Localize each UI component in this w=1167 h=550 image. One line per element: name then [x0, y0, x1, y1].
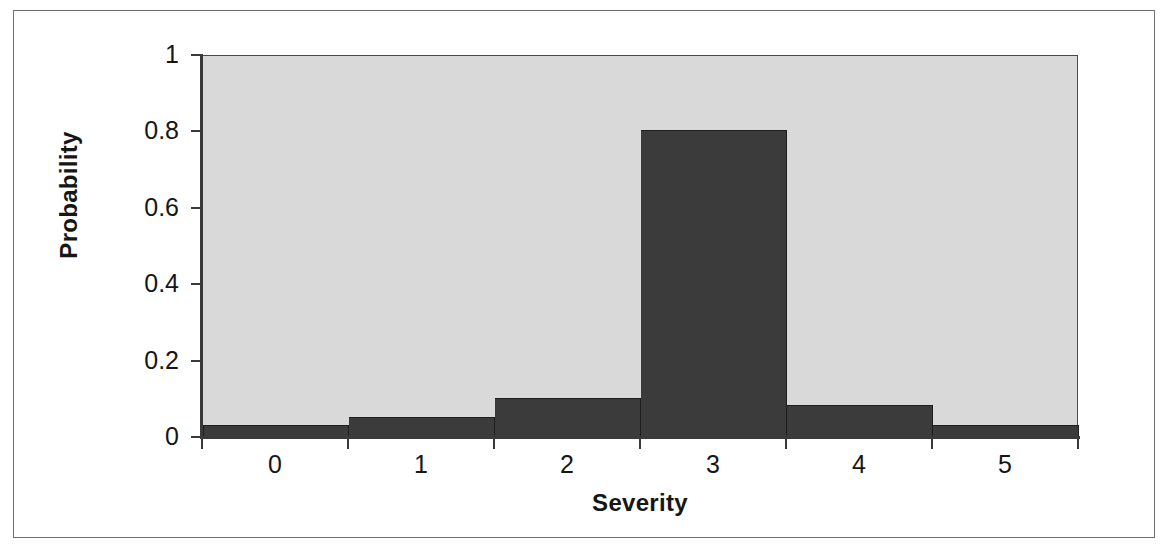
y-tick-label-0.4: 0.4 — [69, 271, 179, 296]
y-tick-label-0.6: 0.6 — [69, 195, 179, 220]
x-tick-0 — [201, 438, 203, 449]
x-tick-label-3: 3 — [673, 452, 753, 477]
y-tick-0.4 — [191, 283, 202, 285]
bar-1 — [349, 417, 495, 436]
y-tick-label-1: 1 — [69, 42, 179, 67]
bar-0 — [203, 425, 349, 436]
y-tick-0.2 — [191, 360, 202, 362]
y-tick-1 — [191, 54, 202, 56]
x-axis-title: Severity — [202, 489, 1078, 517]
x-tick-4 — [785, 438, 787, 449]
y-tick-label-0.2: 0.2 — [69, 348, 179, 373]
bars-layer — [203, 56, 1077, 436]
x-tick-2 — [493, 438, 495, 449]
y-axis-title: Probability — [55, 95, 83, 295]
x-tick-6 — [1077, 438, 1079, 449]
y-tick-label-0.8: 0.8 — [69, 118, 179, 143]
y-tick-0.6 — [191, 207, 202, 209]
chart-screenshot: 00.20.40.60.81 012345 Severity Probabili… — [0, 0, 1167, 550]
bar-3 — [641, 130, 787, 436]
x-tick-5 — [931, 438, 933, 449]
figure-frame: 00.20.40.60.81 012345 Severity Probabili… — [13, 10, 1155, 538]
bar-2 — [495, 398, 641, 436]
plot-area — [202, 55, 1078, 437]
bar-5 — [933, 425, 1079, 436]
y-tick-label-0: 0 — [69, 424, 179, 449]
y-axis-line — [200, 54, 203, 439]
x-tick-label-5: 5 — [965, 452, 1045, 477]
x-tick-label-2: 2 — [527, 452, 607, 477]
x-tick-1 — [347, 438, 349, 449]
x-tick-3 — [639, 438, 641, 449]
bar-4 — [787, 405, 933, 436]
x-tick-label-1: 1 — [381, 452, 461, 477]
x-tick-label-0: 0 — [235, 452, 315, 477]
y-tick-0.8 — [191, 130, 202, 132]
x-tick-label-4: 4 — [819, 452, 899, 477]
